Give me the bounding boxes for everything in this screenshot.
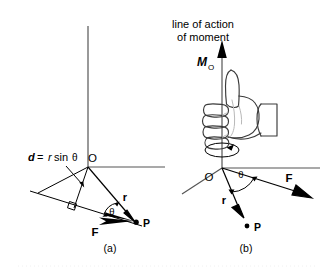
panel-a-angle-label: θ (109, 206, 114, 217)
mechanics-moment-figure: O P F r θ d = r sin θ (a) (0, 0, 333, 278)
panel-a-point-p-label: P (143, 217, 150, 229)
panel-b-moment-subscript: O (208, 63, 214, 72)
panel-a-point-p-dot (134, 220, 139, 225)
figure-container: O P F r θ d = r sin θ (a) (0, 0, 333, 278)
panel-b-r-label: r (222, 194, 227, 206)
panel-b-title-line2: of moment (177, 31, 229, 43)
panel-b: line of action of moment M O O θ F r P (… (172, 18, 320, 254)
panel-b-force-label: F (285, 172, 292, 184)
panel-b-axis-lower-left (182, 168, 222, 194)
panel-b-r-arrowhead-icon (232, 205, 244, 219)
panel-b-point-p-label: P (254, 221, 261, 233)
panel-b-angle-label: θ (238, 169, 243, 180)
panel-b-point-p-dot (245, 224, 250, 229)
panel-a-origin-label: O (88, 152, 97, 164)
panel-a-angle-arrow-end-icon (115, 202, 120, 207)
panel-a-moment-arm-leader (66, 166, 82, 184)
panel-a-r-label: r (123, 191, 128, 203)
panel-a-caption: (a) (104, 242, 117, 254)
panel-a-moment-arm-d: d (28, 151, 35, 163)
panel-a-moment-arm-theta: θ (72, 152, 78, 163)
panel-a-moment-arm-equals: = (37, 151, 43, 163)
panel-a-moment-arm-sin: sin (54, 151, 68, 163)
panel-a-force-label: F (91, 226, 98, 238)
panel-a-moment-arm-label: d = r sin θ (28, 151, 78, 163)
panel-a-moment-arm-r: r (48, 151, 53, 163)
panel-b-origin-label: O (205, 171, 214, 183)
panel-b-title-line1: line of action (172, 18, 234, 30)
panel-b-angle-arc (232, 178, 254, 192)
thumbs-up-hand-icon (203, 70, 278, 149)
panel-b-moment-label: M O (197, 55, 214, 72)
panel-b-caption: (b) (240, 242, 253, 254)
panel-a: O P F r θ d = r sin θ (a) (28, 26, 165, 254)
panel-b-f-arrowhead-icon (292, 185, 312, 198)
panel-b-moment-symbol: M (197, 55, 208, 69)
